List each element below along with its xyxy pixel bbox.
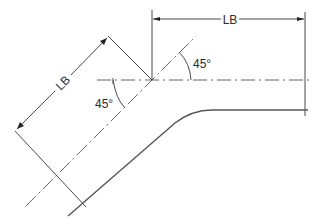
top-dimension: LB	[153, 13, 304, 27]
extension-line-lower-diagonal	[15, 131, 86, 207]
angle-lower: 45°	[95, 78, 125, 111]
pipe-outline	[68, 110, 308, 216]
top-dimension-label: LB	[223, 13, 238, 27]
angle-upper: 45°	[179, 52, 211, 80]
diagonal-dimension-label: LB	[53, 73, 73, 93]
diagonal-dimension: LB	[17, 38, 107, 129]
angle-lower-label: 45°	[95, 97, 113, 111]
arrow-right-icon	[297, 17, 304, 21]
extension-line-upper-diagonal	[108, 36, 152, 80]
angle-upper-label: 45°	[193, 57, 211, 71]
pipe-bend-diagram: LB LB 45° 45°	[0, 0, 318, 224]
arrow-left-icon	[153, 17, 160, 21]
diagonal-centerline	[26, 36, 196, 206]
